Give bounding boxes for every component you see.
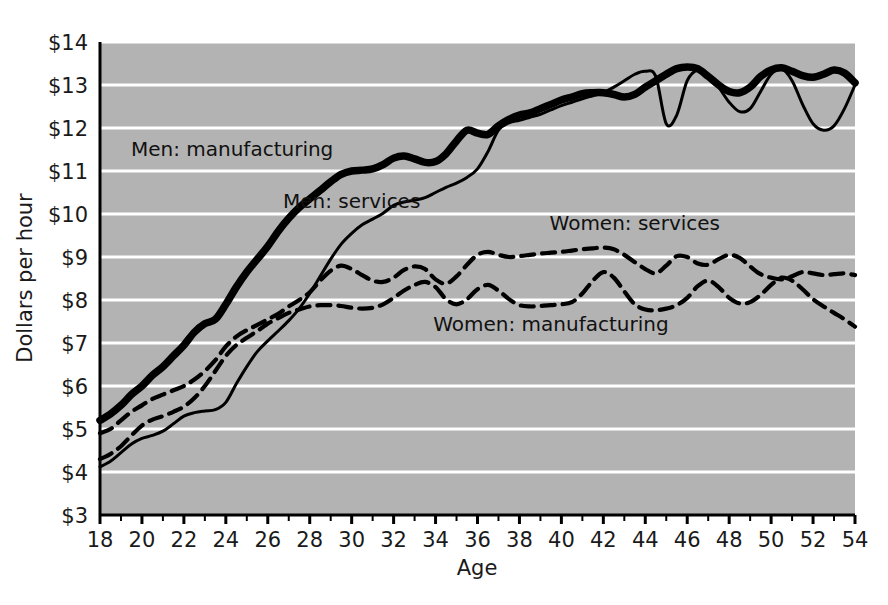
x-axis-tick-labels: 18202224262830323436384042444648505254: [87, 528, 869, 552]
x-tick-label: 34: [422, 528, 449, 552]
y-tick-label: $11: [48, 160, 88, 184]
x-tick-label: 48: [716, 528, 743, 552]
y-axis-title: Dollars per hour: [13, 193, 37, 363]
y-tick-label: $14: [48, 31, 88, 55]
x-tick-label: 26: [254, 528, 281, 552]
x-tick-label: 38: [506, 528, 533, 552]
x-tick-label: 30: [338, 528, 365, 552]
series-label: Women: services: [550, 211, 720, 235]
x-tick-label: 28: [296, 528, 323, 552]
x-tick-label: 54: [842, 528, 869, 552]
x-axis-title: Age: [457, 556, 498, 580]
y-tick-label: $3: [61, 504, 88, 528]
y-tick-label: $13: [48, 74, 88, 98]
chart-container: 18202224262830323436384042444648505254 $…: [0, 0, 888, 605]
x-tick-label: 44: [632, 528, 659, 552]
series-label: Men: services: [283, 189, 420, 213]
series-label: Men: manufacturing: [131, 137, 333, 161]
y-tick-label: $5: [61, 418, 88, 442]
x-tick-label: 32: [380, 528, 407, 552]
x-tick-label: 50: [758, 528, 785, 552]
x-tick-label: 40: [548, 528, 575, 552]
x-tick-label: 46: [674, 528, 701, 552]
x-tick-label: 22: [171, 528, 198, 552]
y-tick-label: $9: [61, 246, 88, 270]
y-tick-label: $10: [48, 203, 88, 227]
y-tick-label: $12: [48, 117, 88, 141]
x-tick-label: 52: [800, 528, 827, 552]
y-tick-label: $4: [61, 461, 88, 485]
y-axis-tick-labels: $3$4$5$6$7$8$9$10$11$12$13$14: [48, 31, 88, 528]
x-tick-label: 36: [464, 528, 491, 552]
y-tick-label: $8: [61, 289, 88, 313]
series-label: Women: manufacturing: [433, 312, 668, 336]
line-chart: 18202224262830323436384042444648505254 $…: [0, 0, 888, 605]
y-tick-label: $7: [61, 332, 88, 356]
x-tick-label: 18: [87, 528, 114, 552]
y-tick-label: $6: [61, 375, 88, 399]
x-tick-label: 24: [212, 528, 239, 552]
x-tick-label: 42: [590, 528, 617, 552]
x-tick-label: 20: [129, 528, 156, 552]
